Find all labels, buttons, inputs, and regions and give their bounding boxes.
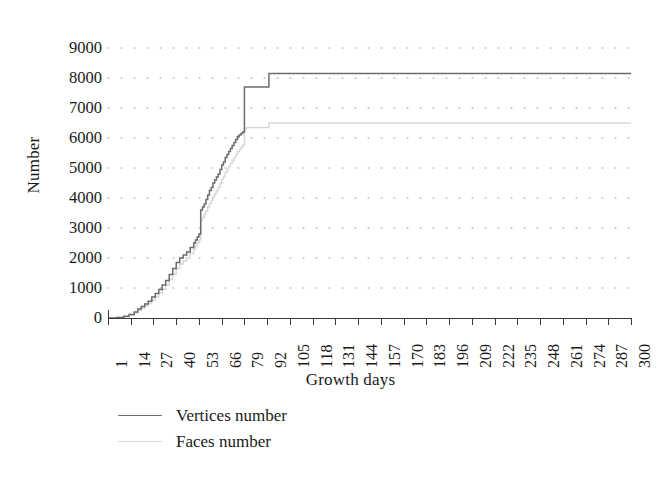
x-tick-label: 1 xyxy=(114,360,130,368)
y-axis-title: Number xyxy=(24,115,44,215)
x-tick-mark xyxy=(267,318,268,325)
x-tick-mark xyxy=(608,318,609,325)
y-tick-label: 6000 xyxy=(44,130,102,147)
legend-item-vertices: Vertices number xyxy=(118,402,418,428)
x-tick-label: 274 xyxy=(592,344,608,368)
x-tick-mark xyxy=(586,318,587,325)
x-tick-mark xyxy=(290,318,291,325)
x-axis-title: Growth days xyxy=(0,370,665,390)
x-tick-label: 131 xyxy=(341,344,357,368)
x-tick-mark xyxy=(449,318,450,325)
x-tick-label: 300 xyxy=(637,344,653,368)
x-tick-mark xyxy=(358,318,359,325)
x-tick-label: 144 xyxy=(364,344,380,368)
x-tick-label: 14 xyxy=(137,352,153,368)
x-axis-title-text: Growth days xyxy=(270,370,396,389)
x-tick-mark xyxy=(540,318,541,325)
x-tick-mark xyxy=(199,318,200,325)
y-tick-label: 9000 xyxy=(44,40,102,57)
x-tick-label: 157 xyxy=(387,344,403,368)
x-tick-mark xyxy=(176,318,177,325)
x-tick-label: 287 xyxy=(614,344,630,368)
x-tick-mark xyxy=(517,318,518,325)
x-tick-label: 222 xyxy=(501,344,517,368)
series-lines xyxy=(108,74,631,319)
x-tick-label: 118 xyxy=(319,345,335,368)
x-tick-mark xyxy=(153,318,154,325)
legend-swatch-vertices-icon xyxy=(118,415,162,416)
legend-swatch-faces-icon xyxy=(118,441,162,442)
x-tick-label: 209 xyxy=(478,344,494,368)
x-tick-mark xyxy=(472,318,473,325)
y-tick-label: 1000 xyxy=(44,280,102,297)
y-tick-label-group: 0100020003000400050006000700080009000 xyxy=(44,38,102,328)
legend-label-vertices: Vertices number xyxy=(176,407,287,424)
x-tick-label-group: 1142740536679921051181311441571701831962… xyxy=(108,328,631,372)
y-tick-label: 7000 xyxy=(44,100,102,117)
x-tick-label: 40 xyxy=(182,352,198,368)
x-tick-label: 183 xyxy=(432,344,448,368)
x-tick-mark xyxy=(563,318,564,325)
y-tick-label: 5000 xyxy=(44,160,102,177)
x-tick-mark xyxy=(426,318,427,325)
x-tick-mark xyxy=(108,318,109,325)
x-tick-mark xyxy=(222,318,223,325)
legend-item-faces: Faces number xyxy=(118,428,418,454)
plot-svg xyxy=(108,48,631,318)
x-tick-label: 53 xyxy=(205,352,221,368)
x-tick-label: 196 xyxy=(455,344,471,368)
x-tick-label: 170 xyxy=(410,344,426,368)
growth-chart-figure: Number 010002000300040005000600070008000… xyxy=(0,0,665,477)
x-tick-mark xyxy=(495,318,496,325)
x-tick-mark xyxy=(335,318,336,325)
x-tick-label: 105 xyxy=(296,344,312,368)
x-tick-label: 27 xyxy=(159,352,175,368)
x-tick-label: 79 xyxy=(250,352,266,368)
x-tick-label: 261 xyxy=(569,344,585,368)
y-tick-label: 8000 xyxy=(44,70,102,87)
x-tick-mark xyxy=(631,318,632,325)
x-tick-label: 248 xyxy=(546,344,562,368)
legend-label-faces: Faces number xyxy=(176,433,271,450)
series-line-vertices xyxy=(108,74,631,319)
series-line-faces xyxy=(108,123,631,318)
chart-legend: Vertices number Faces number xyxy=(118,402,418,454)
y-tick-label: 2000 xyxy=(44,250,102,267)
y-tick-label: 0 xyxy=(44,310,102,327)
x-tick-mark xyxy=(313,318,314,325)
x-tick-label: 66 xyxy=(228,352,244,368)
x-tick-label: 235 xyxy=(523,344,539,368)
x-tick-label: 92 xyxy=(273,352,289,368)
x-tick-mark xyxy=(404,318,405,325)
y-tick-label: 4000 xyxy=(44,190,102,207)
y-tick-label: 3000 xyxy=(44,220,102,237)
x-tick-mark xyxy=(131,318,132,325)
x-tick-mark-group xyxy=(108,318,631,326)
plot-area xyxy=(108,48,631,318)
x-tick-mark xyxy=(381,318,382,325)
x-tick-mark xyxy=(244,318,245,325)
